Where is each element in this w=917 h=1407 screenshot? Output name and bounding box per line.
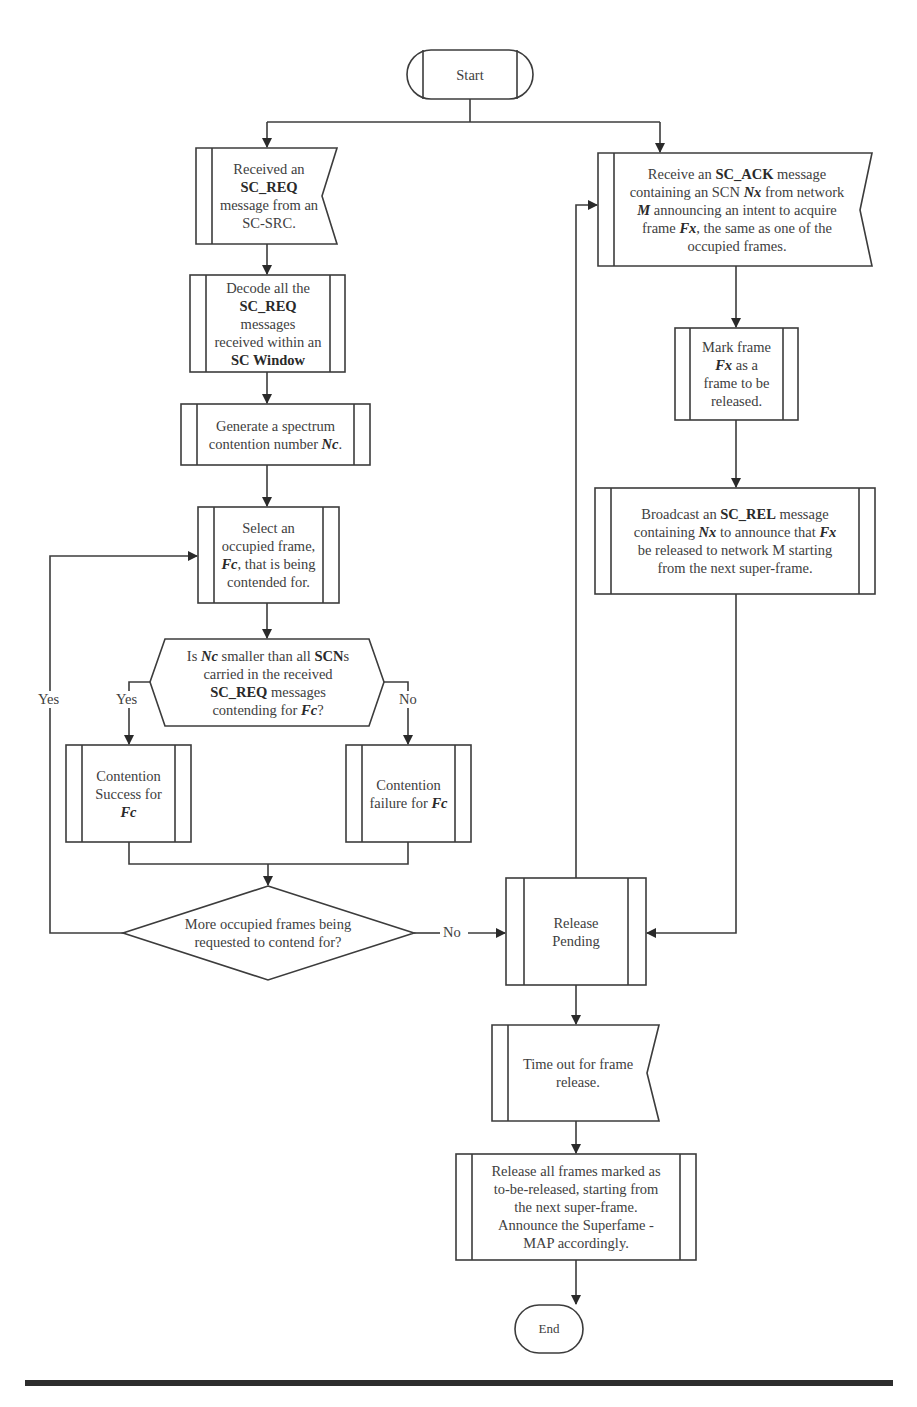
timeout-label: Time out for frame release.: [508, 1025, 648, 1121]
figure-bottom-rule: [25, 1380, 893, 1386]
failure-label: Contention failure for Fc: [362, 745, 455, 842]
release-pending-label: Release Pending: [524, 878, 628, 985]
start-label: Start: [423, 50, 517, 99]
more-no-label: No: [441, 924, 463, 941]
select-label: Select an occupied frame, Fc, that is be…: [214, 507, 323, 603]
generate-label: Generate a spectrum contention number Nc…: [197, 404, 354, 465]
release-all-label: Release all frames marked as to-be-relea…: [472, 1154, 680, 1260]
end-label: End: [515, 1305, 583, 1353]
connectors: [50, 99, 736, 1304]
mark-label: Mark frame Fx as a frame to be released.: [690, 328, 783, 420]
success-label: Contention Success for Fc: [82, 745, 175, 842]
nc-yes-label: Yes: [114, 691, 139, 708]
received-req-label: Received an SC_REQ message from an SC-SR…: [212, 148, 326, 244]
generate-line2: contention number Nc.: [209, 435, 342, 453]
more-frames-label: More occupied frames being requested to …: [170, 905, 366, 961]
nc-no-label: No: [397, 691, 419, 708]
more-yes-label: Yes: [36, 691, 61, 708]
select-line3: Fc, that is being: [221, 555, 315, 573]
decode-label: Decode all the SC_REQ messages received …: [206, 275, 330, 372]
nc-decision-label: Is Nc smaller than all SCNs carried in t…: [160, 639, 376, 726]
broadcast-label: Broadcast an SC_REL message containing N…: [611, 488, 859, 594]
receive-ack-label: Receive an SC_ACK message containing an …: [614, 153, 860, 266]
